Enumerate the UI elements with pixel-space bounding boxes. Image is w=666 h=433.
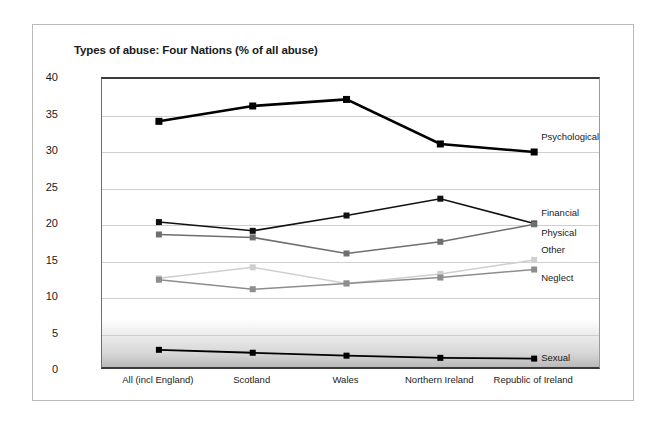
series-marker — [531, 221, 537, 227]
series-label-neglect: Neglect — [541, 271, 573, 282]
series-label-other: Other — [541, 244, 565, 255]
x-axis-tick-label: Scotland — [233, 374, 270, 385]
plot-area — [101, 77, 600, 369]
series-marker — [250, 264, 256, 270]
y-axis-tick-label: 30 — [18, 144, 58, 156]
page-root: Types of abuse: Four Nations (% of all a… — [0, 0, 666, 433]
series-marker — [250, 350, 256, 356]
series-marker — [250, 234, 256, 240]
series-marker — [249, 103, 256, 110]
series-marker — [344, 353, 350, 359]
y-axis-tick-label: 5 — [18, 327, 58, 339]
series-marker — [156, 219, 162, 225]
series-marker — [250, 286, 256, 292]
series-line — [159, 99, 534, 152]
series-marker — [343, 96, 350, 103]
series-line — [159, 224, 534, 253]
series-marker — [156, 277, 162, 283]
series-marker — [437, 355, 443, 361]
x-axis-tick-label: Northern Ireland — [405, 374, 474, 385]
series-marker — [437, 275, 443, 281]
series-marker — [531, 149, 538, 156]
series-marker — [344, 250, 350, 256]
y-axis-tick-label: 10 — [18, 290, 58, 302]
series-marker — [155, 118, 162, 125]
series-label-sexual: Sexual — [541, 351, 570, 362]
series-marker — [344, 213, 350, 219]
x-axis-tick-label: Republic of Ireland — [494, 374, 573, 385]
series-marker — [156, 347, 162, 353]
series-marker — [156, 231, 162, 237]
series-marker — [437, 196, 443, 202]
series-line — [159, 260, 534, 283]
x-axis-tick-label: Wales — [332, 374, 358, 385]
series-label-physical: Physical — [541, 227, 576, 238]
series-marker — [437, 140, 444, 147]
series-marker — [531, 356, 537, 362]
y-axis-tick-label: 20 — [18, 217, 58, 229]
y-axis-tick-label: 0 — [18, 363, 58, 375]
x-axis-tick-label: All (incl England) — [122, 374, 193, 385]
y-axis-tick-label: 35 — [18, 108, 58, 120]
series-lines — [102, 79, 601, 371]
series-label-psychological: Psychological — [541, 131, 599, 142]
series-marker — [250, 228, 256, 234]
y-axis-tick-label: 40 — [18, 71, 58, 83]
series-marker — [437, 239, 443, 245]
series-marker — [531, 267, 537, 273]
series-marker — [344, 280, 350, 286]
series-marker — [531, 257, 537, 263]
y-axis-tick-label: 15 — [18, 254, 58, 266]
series-label-financial: Financial — [541, 206, 579, 217]
y-axis-tick-label: 25 — [18, 181, 58, 193]
